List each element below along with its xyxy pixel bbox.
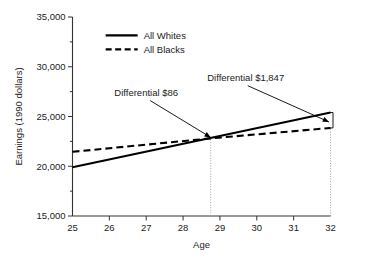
chart-figure: 15,00020,00025,00030,00035,000 252627282… xyxy=(0,0,372,260)
x-tick-label: 25 xyxy=(67,222,78,233)
y-tick-label: 20,000 xyxy=(36,161,65,172)
series-line-all-whites xyxy=(73,113,331,168)
legend-label-all-whites: All Whites xyxy=(144,30,186,41)
chart-legend: All Whites All Blacks xyxy=(106,30,186,55)
x-tick-label: 30 xyxy=(251,222,262,233)
annotation-arrow-differential-1847 xyxy=(248,86,329,122)
y-tick-label: 30,000 xyxy=(36,61,65,72)
x-axis-ticks xyxy=(109,216,293,221)
x-axis-title: Age xyxy=(193,239,210,250)
legend-label-all-blacks: All Blacks xyxy=(144,44,185,55)
chart-canvas: 15,00020,00025,00030,00035,000 252627282… xyxy=(0,0,372,260)
annotation-label-differential-86: Differential $86 xyxy=(114,87,178,98)
annotation-arrowhead-differential-86 xyxy=(204,132,211,137)
x-tick-label: 28 xyxy=(178,222,189,233)
plot-guides xyxy=(211,113,333,216)
x-tick-label: 29 xyxy=(215,222,226,233)
y-tick-label: 15,000 xyxy=(36,210,65,221)
guide-dotted-lines xyxy=(211,128,331,216)
y-axis-title: Earnings (1990 dollars) xyxy=(13,67,24,165)
x-tick-label: 32 xyxy=(325,222,336,233)
annotation-label-differential-1847: Differential $1,847 xyxy=(207,72,284,83)
x-tick-label: 31 xyxy=(288,222,299,233)
y-tick-label: 35,000 xyxy=(36,11,65,22)
differential-bracket xyxy=(328,113,334,128)
x-axis-tick-labels: 2526272829303132 xyxy=(67,222,336,233)
y-tick-label: 25,000 xyxy=(36,111,65,122)
x-tick-label: 27 xyxy=(141,222,152,233)
x-tick-label: 26 xyxy=(104,222,115,233)
y-axis-tick-labels: 15,00020,00025,00030,00035,000 xyxy=(36,11,65,221)
chart-annotations: Differential $86 Differential $1,847 xyxy=(114,72,329,138)
plot-series xyxy=(73,113,331,168)
y-axis-ticks xyxy=(68,17,73,216)
annotation-arrow-differential-86 xyxy=(150,101,211,138)
